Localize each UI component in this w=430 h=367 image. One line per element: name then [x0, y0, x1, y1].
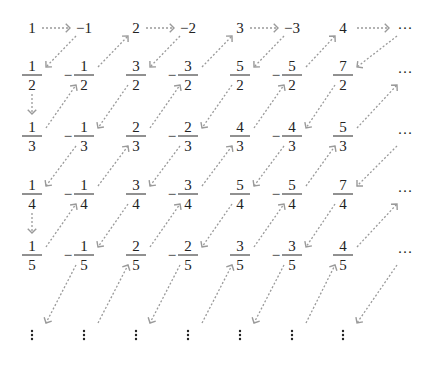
fraction: −15 — [64, 238, 94, 273]
denominator: 3 — [184, 138, 192, 154]
minus-sign: − — [272, 186, 280, 202]
denominator: 5 — [236, 257, 244, 273]
diagonal-up-right-arrow — [46, 85, 77, 128]
diagonal-down-left-arrow — [357, 146, 397, 186]
fraction: 72 — [333, 58, 353, 93]
minus-sign: − — [168, 67, 176, 83]
diagonal-down-left-arrow — [305, 85, 335, 128]
minus-sign: − — [168, 128, 176, 144]
diagonal-down-left-arrow — [97, 204, 128, 247]
numerator: 3 — [132, 177, 140, 193]
fraction: −32 — [168, 58, 198, 93]
arrowhead-icon — [357, 61, 363, 68]
numerator: 3 — [184, 58, 192, 74]
top-row-number: 3 — [236, 20, 244, 36]
diagonal-down-left-arrow — [150, 36, 180, 67]
top-row-number: −2 — [180, 20, 196, 36]
diagonal-up-right-arrow — [306, 36, 335, 67]
diagonal-down-left-arrow — [201, 204, 232, 247]
fraction: −52 — [272, 58, 302, 93]
diagonal-up-right-arrow — [150, 204, 181, 247]
denominator: 3 — [132, 138, 140, 154]
numerator: 3 — [288, 238, 296, 254]
vertical-ellipsis — [31, 330, 33, 340]
numerator: 5 — [288, 177, 296, 193]
fraction: −25 — [168, 238, 198, 273]
diagonal-down-left-arrow — [201, 85, 232, 128]
horizontal-ellipsis: ··· — [398, 64, 413, 80]
fraction: −34 — [168, 177, 198, 212]
fraction: 32 — [126, 58, 146, 93]
diagonal-down-left-arrow — [356, 265, 397, 323]
denominator: 2 — [80, 77, 88, 93]
minus-sign: − — [272, 67, 280, 83]
arrowhead-icon — [226, 146, 233, 152]
diagonal-up-right-arrow — [202, 265, 234, 323]
numerator: 5 — [236, 177, 244, 193]
numerator: 1 — [28, 58, 36, 74]
diagonal-up-right-arrow — [254, 85, 285, 128]
fraction: −43 — [272, 119, 302, 154]
diagonal-down-left-arrow — [252, 265, 284, 323]
denominator: 5 — [132, 257, 140, 273]
down-arrow — [28, 94, 36, 114]
fraction: 13 — [22, 119, 42, 154]
diagonal-down-left-arrow — [149, 146, 180, 186]
numerator: 1 — [28, 119, 36, 135]
numerator: 1 — [28, 238, 36, 254]
diagonal-down-left-arrow — [357, 36, 397, 68]
vertical-ellipsis — [135, 330, 137, 340]
diagonal-down-left-arrow — [46, 36, 76, 67]
denominator: 5 — [80, 257, 88, 273]
denominator: 2 — [28, 77, 36, 93]
denominator: 5 — [184, 257, 192, 273]
denominator: 4 — [339, 196, 347, 212]
horizontal-ellipsis: ··· — [398, 244, 413, 260]
denominator: 4 — [184, 196, 192, 212]
minus-sign: − — [64, 128, 72, 144]
top-row-number: 1 — [28, 20, 36, 36]
fraction: 34 — [126, 177, 146, 212]
arrowhead-icon — [149, 180, 156, 186]
diagonal-up-right-arrow — [98, 146, 129, 186]
fraction: 12 — [22, 58, 42, 93]
arrowhead-icon — [122, 146, 129, 152]
denominator: 3 — [236, 138, 244, 154]
fraction: −14 — [64, 177, 94, 212]
top-row-number: 4 — [339, 20, 347, 36]
horizontal-ellipsis: ··· — [398, 20, 413, 36]
denominator: 4 — [236, 196, 244, 212]
diagonal-up-right-arrow — [357, 204, 397, 247]
diagonal-up-right-arrow — [202, 36, 232, 67]
fraction: 52 — [230, 58, 250, 93]
horizontal-ellipsis: ··· — [398, 125, 413, 141]
minus-sign: − — [168, 186, 176, 202]
numerator: 1 — [80, 119, 88, 135]
minus-sign: − — [272, 247, 280, 263]
minus-sign: − — [168, 247, 176, 263]
minus-sign: − — [64, 247, 72, 263]
right-arrow — [42, 24, 70, 32]
arrowhead-icon — [253, 180, 260, 186]
numerator: 1 — [80, 177, 88, 193]
diagonal-down-left-arrow — [97, 85, 128, 128]
diagonal-up-right-arrow — [98, 265, 130, 323]
fraction: −23 — [168, 119, 198, 154]
denominator: 4 — [28, 196, 36, 212]
numerator: 5 — [288, 58, 296, 74]
vertical-ellipsis — [187, 330, 189, 340]
numerator: 7 — [339, 177, 347, 193]
fraction: −35 — [272, 238, 302, 273]
denominator: 2 — [184, 77, 192, 93]
diagonal-up-right-arrow — [202, 146, 233, 186]
fraction: 74 — [333, 177, 353, 212]
diagonal-up-right-arrow — [46, 204, 77, 247]
vertical-ellipsis — [239, 330, 241, 340]
right-arrow — [357, 24, 389, 32]
fraction: 54 — [230, 177, 250, 212]
right-arrow — [250, 24, 278, 32]
label-layer: 1−12−23−34···12−1232−3252−5272···13−1323… — [22, 20, 413, 340]
diagonal-up-right-arrow — [150, 85, 181, 128]
numerator: 4 — [236, 119, 244, 135]
diagonal-down-left-arrow — [45, 146, 76, 186]
